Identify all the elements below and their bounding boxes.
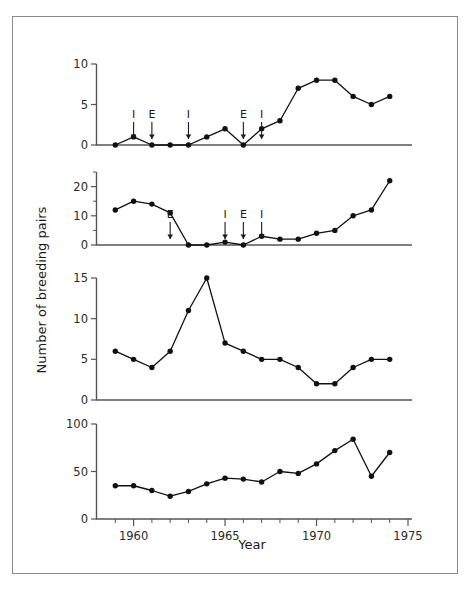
data-point: [296, 365, 301, 370]
data-point: [296, 471, 301, 476]
panel-3-ytick-label: 0: [81, 393, 88, 407]
annotation-arrow-i: I: [259, 108, 265, 139]
panel-4-ytick-label: 100: [66, 417, 88, 431]
y-axis-title: Number of breeding pairs: [34, 206, 49, 373]
panel-1-series-line: [115, 80, 389, 145]
data-point: [277, 469, 282, 474]
data-point: [204, 134, 209, 139]
data-point: [259, 479, 264, 484]
data-point: [167, 494, 172, 499]
panel-2-ytick-label: 20: [73, 180, 88, 194]
panel-3-ytick-label: 10: [73, 312, 88, 326]
xtick-label: 1960: [119, 529, 148, 543]
panel-3-ytick-label: 5: [81, 352, 88, 366]
data-point: [222, 239, 227, 244]
panel-1-ytick-label: 5: [81, 98, 88, 112]
annotation-arrow-e: E: [167, 208, 174, 239]
data-point: [149, 201, 154, 206]
data-point: [314, 381, 319, 386]
panel-3: 051015: [73, 271, 412, 407]
annotation-arrow-i: I: [222, 208, 228, 239]
annotation-label: E: [148, 108, 155, 121]
data-point: [167, 142, 172, 147]
data-point: [241, 476, 246, 481]
panel-2: 01020EIEI: [73, 172, 412, 252]
data-point: [277, 236, 282, 241]
data-point: [332, 228, 337, 233]
data-point: [204, 242, 209, 247]
data-point: [332, 381, 337, 386]
data-point: [296, 236, 301, 241]
data-point: [332, 78, 337, 83]
data-point: [314, 231, 319, 236]
data-point: [314, 78, 319, 83]
data-point: [350, 94, 355, 99]
panel-4: 0501001960196519701975: [66, 417, 423, 543]
annotation-label: I: [132, 108, 135, 121]
panel-2-ytick-label: 0: [81, 238, 88, 252]
panel-3-series-line: [115, 278, 389, 384]
annotation-label: I: [260, 108, 263, 121]
annotation-label: E: [167, 208, 174, 221]
data-point: [149, 365, 154, 370]
panel-4-axes: [97, 424, 413, 519]
data-point: [332, 448, 337, 453]
data-point: [204, 481, 209, 486]
panel-2-ytick-label: 10: [73, 209, 88, 223]
arrow-head: [241, 135, 247, 140]
data-point: [113, 483, 118, 488]
arrow-head: [222, 235, 228, 240]
panel-4-ytick-label: 50: [73, 465, 88, 479]
data-point: [369, 357, 374, 362]
data-point: [387, 94, 392, 99]
data-point: [167, 349, 172, 354]
panel-2-axes: [97, 172, 413, 245]
annotation-arrow-i: I: [259, 208, 265, 239]
xtick-label: 1970: [302, 529, 331, 543]
arrow-head: [186, 135, 192, 140]
annotation-label: I: [260, 208, 263, 221]
data-point: [387, 178, 392, 183]
annotation-arrow-e: E: [148, 108, 155, 139]
data-point: [314, 461, 319, 466]
arrow-head: [149, 135, 155, 140]
annotation-arrow-e: E: [240, 108, 247, 139]
data-point: [241, 242, 246, 247]
annotation-label: E: [240, 108, 247, 121]
data-point: [113, 207, 118, 212]
panel-2-series-line: [115, 181, 389, 245]
annotation-label: E: [240, 208, 247, 221]
data-point: [149, 488, 154, 493]
data-point: [186, 308, 191, 313]
data-point: [113, 349, 118, 354]
panel-1-axes: [97, 64, 413, 145]
panel-1-ytick-label: 10: [73, 57, 88, 71]
panel-1-ytick-label: 0: [81, 138, 88, 152]
annotation-arrow-e: E: [240, 208, 247, 239]
data-point: [222, 126, 227, 131]
data-point: [350, 213, 355, 218]
annotation-arrow-i: I: [186, 108, 192, 139]
data-point: [131, 199, 136, 204]
data-point: [131, 483, 136, 488]
data-point: [369, 474, 374, 479]
data-point: [186, 489, 191, 494]
panel-1: 0510IEIEI: [73, 57, 412, 152]
data-point: [222, 340, 227, 345]
data-point: [369, 207, 374, 212]
panel-4-ytick-label: 0: [81, 512, 88, 526]
data-point: [277, 357, 282, 362]
annotation-label: I: [187, 108, 190, 121]
data-point: [186, 142, 191, 147]
data-point: [350, 365, 355, 370]
data-point: [186, 242, 191, 247]
x-axis-title: Year: [237, 537, 266, 552]
data-point: [149, 142, 154, 147]
xtick-label: 1975: [393, 529, 422, 543]
data-point: [350, 437, 355, 442]
panel-4-series-line: [115, 439, 389, 496]
arrow-head: [259, 135, 265, 140]
data-point: [241, 349, 246, 354]
data-point: [113, 142, 118, 147]
data-point: [387, 357, 392, 362]
